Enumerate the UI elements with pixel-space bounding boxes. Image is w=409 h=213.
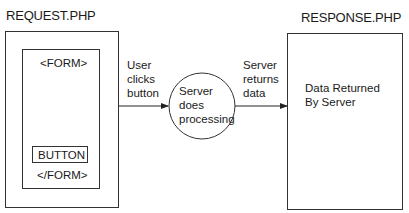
server-process-line1: Server	[179, 84, 235, 98]
form-close-tag: </FORM>	[37, 168, 87, 182]
user-clicks-line1: User	[127, 58, 159, 72]
response-page-box	[287, 33, 403, 210]
submit-button-label: BUTTON	[38, 148, 85, 162]
server-process-line3: processing	[179, 112, 235, 126]
server-returns-line1: Server	[243, 58, 279, 72]
user-clicks-line3: button	[127, 86, 159, 100]
request-title: REQUEST.PHP	[6, 8, 96, 23]
response-title: RESPONSE.PHP	[301, 10, 401, 25]
response-data-line1: Data Returned	[305, 81, 380, 95]
response-data-line2: By Server	[305, 95, 380, 109]
server-returns-label: Server returns data	[243, 58, 279, 100]
server-returns-line2: returns	[243, 72, 279, 86]
server-returns-line3: data	[243, 86, 279, 100]
server-process-line2: does	[179, 98, 235, 112]
response-data-label: Data Returned By Server	[305, 81, 380, 109]
form-open-tag: <FORM>	[40, 56, 87, 70]
user-clicks-label: User clicks button	[127, 58, 159, 100]
user-clicks-line2: clicks	[127, 72, 159, 86]
server-process-label: Server does processing	[179, 84, 235, 126]
